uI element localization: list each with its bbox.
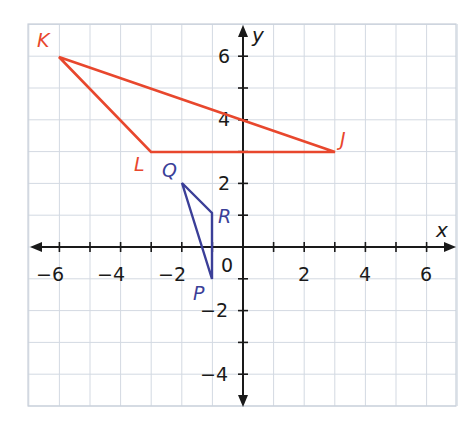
triangle-jkl [59, 57, 335, 152]
x-tick-label: 2 [298, 263, 310, 285]
vertex-label-l: L [134, 153, 145, 175]
x-axis-left-arrow-icon [30, 242, 42, 252]
origin-label: 0 [221, 254, 233, 276]
x-axis-label: x [435, 218, 448, 242]
vertex-label-q: Q [162, 159, 177, 181]
coordinate-plane: x y −6 −4 −2 0 2 4 6 6 4 2 −2 −4 K J L Q… [0, 0, 473, 427]
x-tick-label: −4 [97, 263, 125, 285]
vertex-label-j: J [336, 128, 346, 150]
x-tick-label: −6 [36, 263, 64, 285]
x-tick-label: −2 [158, 263, 186, 285]
y-axis-label: y [251, 23, 265, 47]
vertex-label-k: K [37, 29, 51, 51]
y-tick-label: −4 [200, 363, 228, 385]
vertex-label-r: R [218, 205, 231, 227]
y-axis-down-arrow-icon [238, 395, 248, 407]
x-tick-label: 4 [359, 263, 371, 285]
y-tick-label: 2 [218, 172, 230, 194]
x-axis-right-arrow-icon [444, 242, 456, 252]
x-tick-label: 6 [420, 263, 432, 285]
y-tick-label: 6 [218, 45, 230, 67]
triangle-pqr [182, 183, 212, 279]
vertex-label-p: P [193, 282, 205, 304]
y-axis-up-arrow-icon [238, 25, 248, 37]
